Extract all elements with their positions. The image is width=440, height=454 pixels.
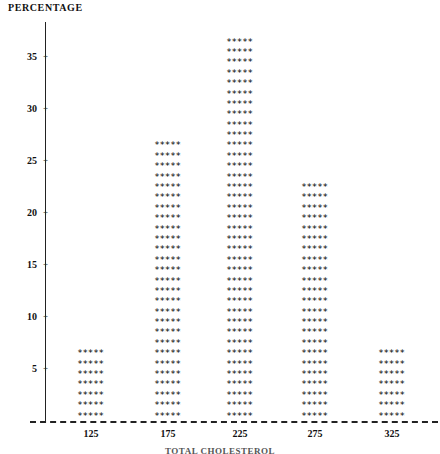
star-row: ***** [227, 307, 254, 317]
star-row: ***** [155, 338, 182, 348]
star-row: ***** [155, 411, 182, 421]
star-row: ***** [302, 192, 329, 202]
star-row: ***** [302, 234, 329, 244]
star-row: ***** [155, 182, 182, 192]
y-tick-label: 15 [15, 260, 37, 270]
star-row: ***** [302, 286, 329, 296]
star-row: ***** [227, 161, 254, 171]
star-row: ***** [155, 151, 182, 161]
star-row: ***** [227, 338, 254, 348]
star-row: ***** [227, 390, 254, 400]
star-row: ***** [155, 140, 182, 150]
star-row: ***** [155, 327, 182, 337]
star-row: ***** [155, 359, 182, 369]
star-row: ***** [302, 224, 329, 234]
y-tick-label: 5 [15, 364, 37, 374]
star-row: ***** [302, 379, 329, 389]
y-tick-mark: + [41, 364, 50, 373]
x-tick-label: 325 [372, 428, 412, 440]
y-tick-mark: + [41, 104, 50, 113]
star-row: ***** [78, 379, 105, 389]
star-row: ***** [227, 359, 254, 369]
star-row: ***** [227, 317, 254, 327]
bar-225: ****************************************… [217, 37, 263, 421]
star-row: ***** [155, 296, 182, 306]
star-row: ***** [78, 369, 105, 379]
star-row: ***** [227, 151, 254, 161]
star-row: ***** [227, 89, 254, 99]
star-row: ***** [155, 265, 182, 275]
star-row: ***** [227, 296, 254, 306]
star-row: ***** [302, 317, 329, 327]
star-row: ***** [302, 390, 329, 400]
star-row: ***** [155, 307, 182, 317]
star-row: ***** [155, 224, 182, 234]
star-row: ***** [227, 224, 254, 234]
star-row: ***** [227, 369, 254, 379]
y-axis-line [45, 22, 46, 421]
star-row: ***** [155, 172, 182, 182]
bar-275: ****************************************… [292, 182, 338, 421]
y-tick-mark: + [41, 52, 50, 61]
star-row: ***** [379, 348, 406, 358]
star-row: ***** [155, 348, 182, 358]
x-tick-label: 275 [295, 428, 335, 440]
star-row: ***** [302, 276, 329, 286]
star-row: ***** [227, 234, 254, 244]
star-row: ***** [155, 369, 182, 379]
star-row: ***** [302, 411, 329, 421]
histogram-chart: PERCENTAGE +35+30+25+20+15+10+5 ********… [0, 0, 440, 454]
star-row: ***** [227, 172, 254, 182]
star-row: ***** [155, 400, 182, 410]
star-row: ***** [302, 400, 329, 410]
x-axis-line [30, 421, 438, 423]
star-row: ***** [379, 369, 406, 379]
y-tick-label: 30 [15, 104, 37, 114]
star-row: ***** [155, 317, 182, 327]
star-row: ***** [227, 47, 254, 57]
star-row: ***** [302, 369, 329, 379]
star-row: ***** [78, 400, 105, 410]
star-row: ***** [302, 203, 329, 213]
star-row: ***** [227, 379, 254, 389]
bar-175: ****************************************… [145, 140, 191, 421]
star-row: ***** [302, 327, 329, 337]
star-row: ***** [302, 296, 329, 306]
star-row: ***** [227, 327, 254, 337]
x-axis-title: TOTAL CHOLESTEROL [0, 446, 440, 454]
star-row: ***** [379, 390, 406, 400]
y-tick-label: 20 [15, 208, 37, 218]
y-tick-label: 10 [15, 312, 37, 322]
y-tick-mark: + [41, 156, 50, 165]
star-row: ***** [379, 411, 406, 421]
star-row: ***** [227, 68, 254, 78]
star-row: ***** [302, 359, 329, 369]
star-row: ***** [227, 348, 254, 358]
star-row: ***** [227, 130, 254, 140]
star-row: ***** [227, 265, 254, 275]
star-row: ***** [302, 307, 329, 317]
star-row: ***** [155, 234, 182, 244]
star-row: ***** [227, 182, 254, 192]
star-row: ***** [155, 192, 182, 202]
star-row: ***** [379, 359, 406, 369]
star-row: ***** [155, 276, 182, 286]
star-row: ***** [302, 213, 329, 223]
star-row: ***** [78, 348, 105, 358]
x-tick-label: 125 [71, 428, 111, 440]
y-tick-mark: + [41, 260, 50, 269]
bar-325: *********************************** [369, 348, 415, 421]
star-row: ***** [227, 109, 254, 119]
star-row: ***** [302, 265, 329, 275]
star-row: ***** [302, 182, 329, 192]
star-row: ***** [227, 213, 254, 223]
star-row: ***** [227, 192, 254, 202]
page-title: PERCENTAGE [8, 2, 83, 13]
star-row: ***** [227, 286, 254, 296]
y-tick-mark: + [41, 312, 50, 321]
star-row: ***** [155, 203, 182, 213]
x-tick-label: 225 [220, 428, 260, 440]
star-row: ***** [227, 140, 254, 150]
star-row: ***** [78, 390, 105, 400]
star-row: ***** [155, 286, 182, 296]
